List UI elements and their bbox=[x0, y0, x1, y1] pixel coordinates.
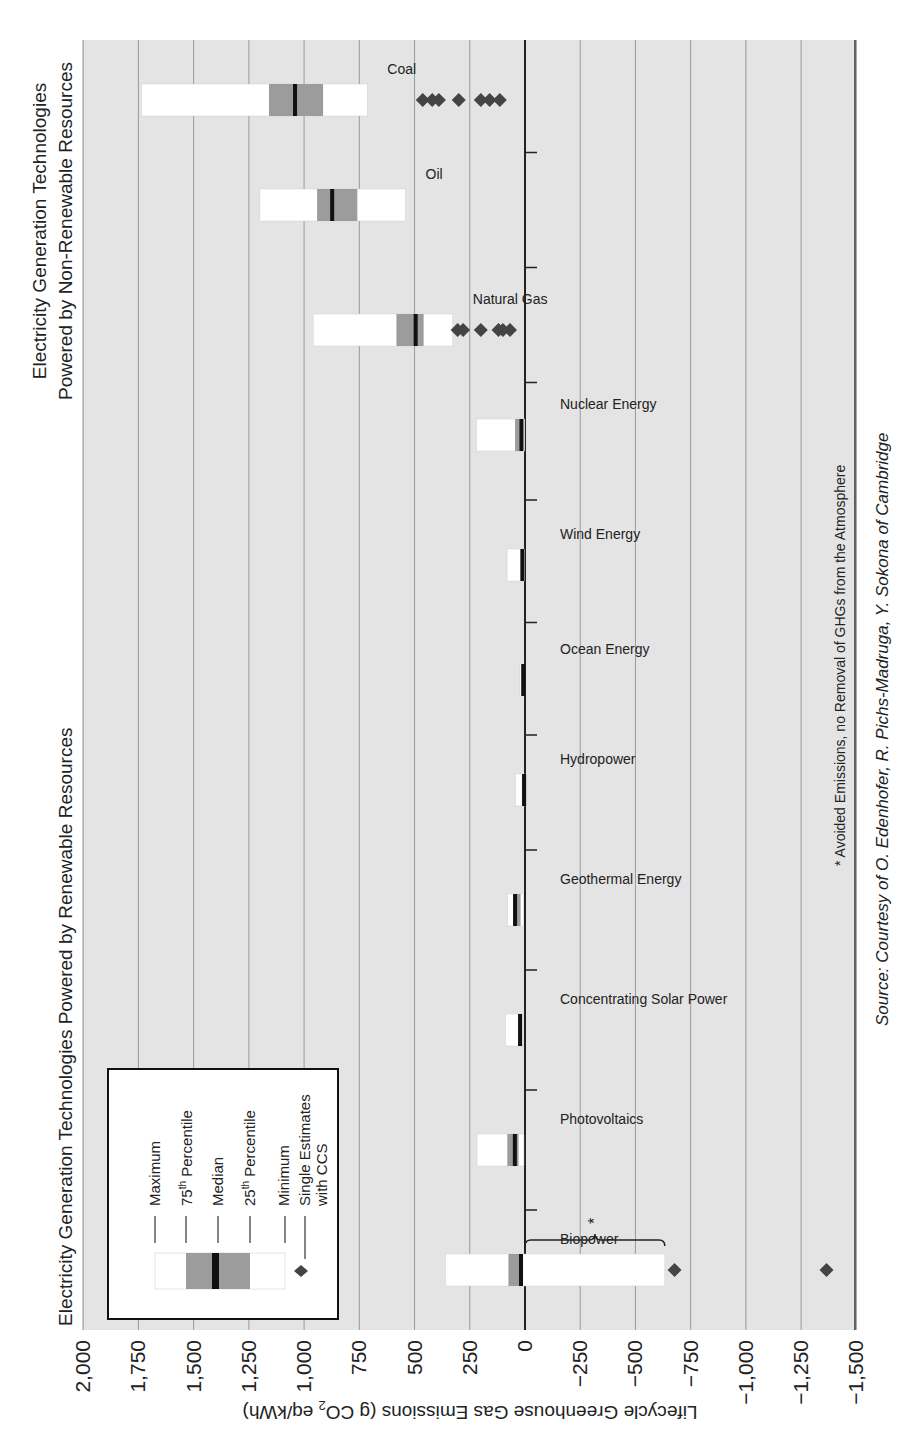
legend-ccs-line2: with CCS bbox=[313, 1143, 330, 1207]
y-tick-label: 1,500 bbox=[182, 1340, 205, 1393]
y-tick-label: −1,000 bbox=[734, 1340, 757, 1405]
title-nonrenewable-line2: Powered by Non-Renewable Resources bbox=[55, 62, 76, 400]
category-label: Natural Gas bbox=[473, 291, 548, 307]
title-renewable: Electricity Generation Technologies Powe… bbox=[55, 728, 76, 1326]
category-label: Concentrating Solar Power bbox=[560, 991, 728, 1007]
y-tick-label: 2,000 bbox=[71, 1340, 94, 1393]
legend: Maximum 75th Percentile Median 25th Perc… bbox=[108, 1069, 338, 1319]
title-nonrenewable-line1: Electricity Generation Technologies bbox=[29, 83, 50, 379]
footnote: * Avoided Emissions, no Removal of GHGs … bbox=[832, 465, 848, 866]
y-tick-label: 1,750 bbox=[126, 1340, 149, 1393]
y-tick-label: −1,250 bbox=[789, 1340, 812, 1405]
legend-swatch-median bbox=[212, 1253, 219, 1289]
y-tick-label: 750 bbox=[347, 1340, 370, 1375]
y-tick-label: 0 bbox=[513, 1340, 536, 1352]
legend-75th: 75th Percentile bbox=[177, 1110, 195, 1206]
category-label: Ocean Energy bbox=[560, 641, 650, 657]
y-tick-label: 1,250 bbox=[237, 1340, 260, 1393]
y-tick-label: −500 bbox=[623, 1340, 646, 1387]
y-tick-label: −250 bbox=[568, 1340, 591, 1387]
category-label: Biopower bbox=[560, 1231, 619, 1247]
y-tick-label: 500 bbox=[403, 1340, 426, 1375]
legend-25th: 25th Percentile bbox=[240, 1110, 258, 1206]
figure-caption: Source: Courtesy of O. Edenhofer, R. Pic… bbox=[873, 433, 892, 1026]
chart-figure: Electricity Generation Technologies Powe… bbox=[0, 0, 897, 1446]
legend-median: Median bbox=[209, 1157, 226, 1206]
y-tick-label: −750 bbox=[679, 1340, 702, 1387]
legend-maximum: Maximum bbox=[146, 1141, 163, 1206]
category-label: Photovoltaics bbox=[560, 1111, 643, 1127]
category-label: Wind Energy bbox=[560, 526, 640, 542]
category-label: Hydropower bbox=[560, 751, 636, 767]
y-tick-label: 250 bbox=[458, 1340, 481, 1375]
y-tick-label: 1,000 bbox=[292, 1340, 315, 1393]
box-plot-chart: Electricity Generation Technologies Powe… bbox=[0, 0, 897, 1446]
y-axis-label: Lifecycle Greenhouse Gas Emissions (g CO… bbox=[243, 1398, 698, 1423]
category-label: Nuclear Energy bbox=[560, 396, 657, 412]
legend-ccs-line1: Single Estimates bbox=[296, 1094, 313, 1206]
category-label: Oil bbox=[425, 166, 442, 182]
brace-asterisk: * bbox=[586, 1218, 603, 1224]
legend-minimum: Minimum bbox=[275, 1145, 292, 1206]
y-axis-ticks: 2,0001,7501,5001,2501,0007505002500−250−… bbox=[71, 1340, 867, 1405]
category-label: Coal bbox=[387, 61, 416, 77]
y-tick-label: −1,500 bbox=[844, 1340, 867, 1405]
category-label: Geothermal Energy bbox=[560, 871, 681, 887]
